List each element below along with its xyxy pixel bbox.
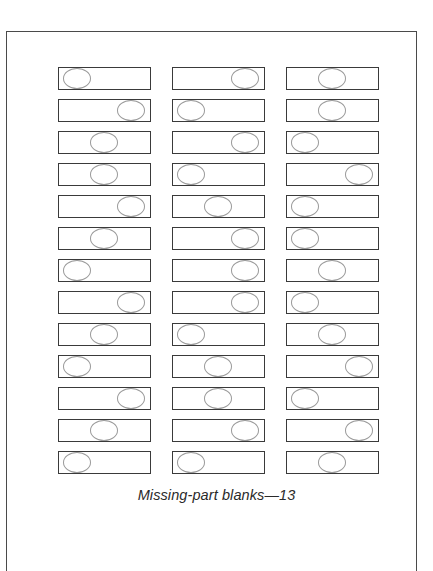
oval-icon xyxy=(63,356,91,377)
blank-box xyxy=(172,99,265,122)
blank-box xyxy=(172,67,265,90)
blank-box xyxy=(58,387,151,410)
blank-box xyxy=(286,355,379,378)
oval-icon xyxy=(318,260,346,281)
oval-icon xyxy=(204,388,232,409)
blank-box xyxy=(58,163,151,186)
blank-box xyxy=(172,195,265,218)
blank-box xyxy=(58,195,151,218)
oval-icon xyxy=(90,164,118,185)
blank-box xyxy=(172,291,265,314)
oval-icon xyxy=(291,228,319,249)
oval-icon xyxy=(117,292,145,313)
blank-box xyxy=(172,259,265,282)
blank-box xyxy=(172,323,265,346)
blank-box xyxy=(172,387,265,410)
oval-icon xyxy=(204,196,232,217)
blank-box xyxy=(286,323,379,346)
oval-icon xyxy=(318,68,346,89)
oval-icon xyxy=(291,132,319,153)
blank-box xyxy=(58,419,151,442)
oval-icon xyxy=(117,100,145,121)
blank-box xyxy=(58,67,151,90)
blank-box xyxy=(172,451,265,474)
blank-box xyxy=(286,163,379,186)
blank-box xyxy=(286,291,379,314)
blank-box xyxy=(286,67,379,90)
oval-icon xyxy=(345,356,373,377)
oval-icon xyxy=(177,324,205,345)
oval-icon xyxy=(231,292,259,313)
oval-icon xyxy=(63,68,91,89)
blank-box xyxy=(58,323,151,346)
oval-icon xyxy=(231,68,259,89)
oval-icon xyxy=(291,292,319,313)
blank-box xyxy=(58,259,151,282)
blank-box xyxy=(286,259,379,282)
oval-icon xyxy=(177,452,205,473)
blank-box xyxy=(172,227,265,250)
blank-box xyxy=(286,419,379,442)
oval-icon xyxy=(318,452,346,473)
oval-icon xyxy=(90,132,118,153)
oval-icon xyxy=(117,388,145,409)
oval-icon xyxy=(231,420,259,441)
oval-icon xyxy=(90,324,118,345)
oval-icon xyxy=(117,196,145,217)
blank-box xyxy=(58,451,151,474)
oval-icon xyxy=(63,260,91,281)
blank-box xyxy=(286,387,379,410)
blank-box xyxy=(286,451,379,474)
oval-icon xyxy=(231,228,259,249)
blank-box xyxy=(172,355,265,378)
blank-box xyxy=(286,131,379,154)
blank-box xyxy=(58,355,151,378)
blank-box xyxy=(58,227,151,250)
oval-icon xyxy=(90,228,118,249)
oval-icon xyxy=(318,100,346,121)
blank-box xyxy=(172,131,265,154)
oval-icon xyxy=(345,420,373,441)
oval-icon xyxy=(231,260,259,281)
oval-icon xyxy=(345,164,373,185)
oval-icon xyxy=(318,324,346,345)
oval-icon xyxy=(177,100,205,121)
oval-icon xyxy=(177,164,205,185)
blank-box xyxy=(58,291,151,314)
blank-box xyxy=(172,419,265,442)
oval-icon xyxy=(231,132,259,153)
oval-icon xyxy=(291,196,319,217)
blank-box xyxy=(58,131,151,154)
blank-box xyxy=(286,227,379,250)
oval-icon xyxy=(63,452,91,473)
blank-box xyxy=(286,195,379,218)
oval-icon xyxy=(90,420,118,441)
oval-icon xyxy=(291,388,319,409)
blank-box xyxy=(172,163,265,186)
blank-box xyxy=(286,99,379,122)
worksheet-caption: Missing-part blanks—13 xyxy=(0,487,433,503)
blank-box xyxy=(58,99,151,122)
oval-icon xyxy=(204,356,232,377)
